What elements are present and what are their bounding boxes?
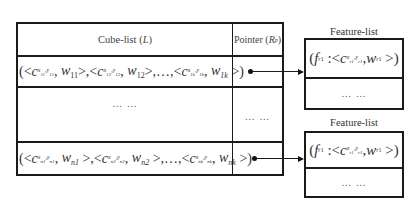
feature-list-more-1: … …: [306, 79, 402, 108]
feature-list-title-1: Feature-list: [304, 26, 404, 37]
table-border-right: [282, 22, 284, 176]
cube-list-row-1: (<cx11,y11, w11>,<cx12,y12, w12>,…,<cx1k…: [18, 57, 233, 86]
feature-list-entry-1: (fr1 :<cxr1,yr1,wr1 >): [306, 40, 402, 77]
cube-list-header-text: Cube-list (: [98, 34, 143, 45]
feature-list-entry-2: (fr1 :<cxr1,yr1,wr1 >): [306, 133, 402, 167]
feature-list-title-2: Feature-list: [304, 117, 404, 128]
pointer-arrow-line-1: [251, 71, 299, 72]
pointer-close-paren: ): [278, 34, 281, 45]
pointer-arrow-line-n: [255, 158, 299, 159]
pointer-header-text: Pointer (: [234, 34, 269, 45]
cube-list-header: Cube-list (L): [18, 24, 232, 55]
pointer-header: Pointer (Rp): [233, 24, 282, 55]
cube-list-row-n: (<cxn1,yn1, wn1 >,<cxn2,yn2, wn2 >,…,<cx…: [18, 143, 233, 174]
cube-list-close-paren: ): [148, 34, 152, 45]
table-border-bottom: [16, 174, 284, 176]
cube-list-row-ellipsis: … …: [18, 87, 232, 119]
feature-list-more-2: … …: [306, 169, 402, 196]
pointer-row-ellipsis: … …: [233, 100, 282, 132]
